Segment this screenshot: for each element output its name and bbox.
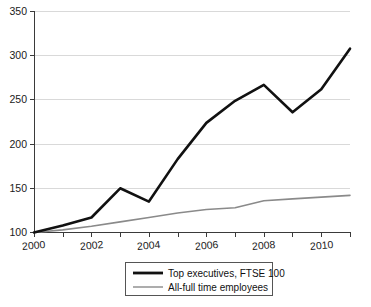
legend-label-all-full-time-employees: All-full time employees (168, 282, 268, 293)
x-tick-label-2010: 2010 (309, 238, 333, 252)
gridlines (34, 12, 350, 189)
x-tick-label-2000: 2000 (21, 238, 45, 252)
chart-canvas: 350 300 250 200 150 100 2000 2002 20 (0, 0, 371, 307)
series-line-top-executives (34, 49, 350, 233)
legend-label-top-executives: Top executives, FTSE 100 (168, 268, 285, 279)
y-tick-label-100: 100 (9, 226, 27, 238)
x-axis-tick-labels: 2000 2002 2004 2006 2008 2010 (21, 238, 333, 252)
legend: Top executives, FTSE 100 All-full time e… (126, 263, 286, 296)
series-group (34, 49, 350, 233)
y-tick-label-250: 250 (9, 93, 27, 105)
y-axis-ticks (30, 12, 34, 233)
x-tick-label-2008: 2008 (251, 238, 275, 252)
y-tick-label-300: 300 (9, 49, 27, 61)
series-line-all-full-time-employees (34, 195, 350, 232)
line-chart: 350 300 250 200 150 100 2000 2002 20 (0, 0, 371, 307)
x-tick-label-2004: 2004 (136, 238, 160, 252)
x-tick-label-2002: 2002 (79, 238, 103, 252)
y-tick-label-350: 350 (9, 5, 27, 17)
y-tick-label-150: 150 (9, 182, 27, 194)
y-axis-tick-labels: 350 300 250 200 150 100 (9, 5, 27, 238)
y-tick-label-200: 200 (9, 138, 27, 150)
x-tick-label-2006: 2006 (194, 238, 218, 252)
